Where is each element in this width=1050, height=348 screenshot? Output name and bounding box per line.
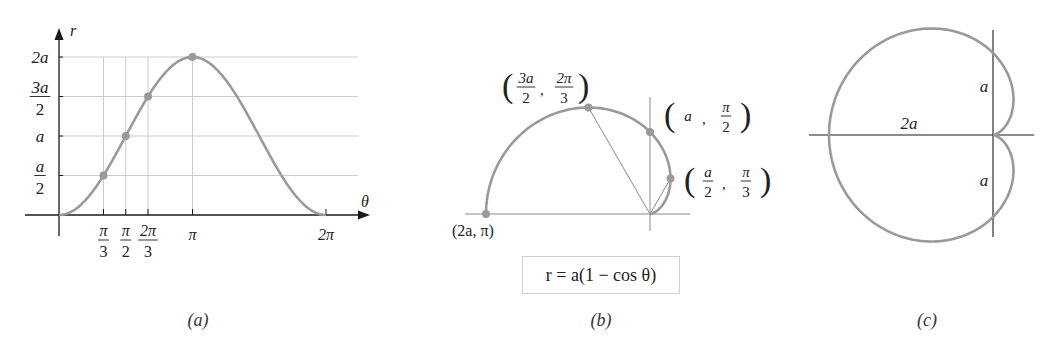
x-tick-label: 2π bbox=[318, 226, 335, 243]
svg-text:2π: 2π bbox=[318, 226, 335, 243]
svg-text:(: ( bbox=[502, 67, 513, 105]
y-tick-label: 3a2 bbox=[30, 78, 51, 119]
point-marker bbox=[667, 174, 675, 182]
theta-value: π3 bbox=[741, 164, 751, 200]
svg-text:2: 2 bbox=[36, 100, 45, 119]
svg-text:2π: 2π bbox=[140, 222, 157, 239]
x-tick-label: π2 bbox=[120, 222, 131, 260]
svg-text:π: π bbox=[122, 222, 131, 239]
svg-text:a: a bbox=[704, 164, 712, 180]
panel-c-cardioid: 2a a a bbox=[809, 29, 1034, 242]
svg-text:π: π bbox=[188, 226, 197, 243]
lower-a-label: a bbox=[980, 171, 989, 190]
width-label: 2a bbox=[901, 114, 918, 133]
svg-text:3: 3 bbox=[100, 243, 108, 260]
svg-text:): ) bbox=[740, 96, 751, 134]
svg-text:3: 3 bbox=[144, 243, 152, 260]
svg-text:π: π bbox=[99, 222, 108, 239]
svg-text:a: a bbox=[36, 157, 45, 176]
point-marker bbox=[189, 53, 197, 61]
svg-text:): ) bbox=[760, 161, 771, 199]
y-tick-label: a2 bbox=[34, 157, 45, 198]
svg-text:2: 2 bbox=[704, 184, 712, 200]
svg-text:2: 2 bbox=[722, 119, 730, 135]
svg-text:π: π bbox=[742, 164, 750, 180]
theta-value: π2 bbox=[721, 99, 731, 135]
svg-text:3: 3 bbox=[742, 184, 750, 200]
svg-text:a: a bbox=[36, 127, 45, 146]
x-tick-label: 2π3 bbox=[138, 222, 158, 260]
upper-a-label: a bbox=[980, 77, 989, 96]
point-marker bbox=[584, 103, 592, 111]
point-marker bbox=[144, 92, 152, 100]
svg-text:2: 2 bbox=[122, 243, 130, 260]
y-tick-label: a bbox=[36, 127, 45, 146]
svg-text:2π: 2π bbox=[556, 70, 572, 86]
svg-text:π: π bbox=[722, 99, 730, 115]
label-2a-pi: (2a, π) bbox=[452, 222, 494, 240]
r-axis-arrow-icon bbox=[55, 28, 64, 40]
r-axis-label: r bbox=[70, 22, 77, 39]
svg-text:3a: 3a bbox=[518, 70, 534, 86]
theta-axis-label: θ bbox=[361, 193, 369, 210]
svg-text:): ) bbox=[578, 67, 589, 105]
caption-a: (a) bbox=[188, 310, 209, 331]
svg-text:a: a bbox=[684, 108, 692, 124]
r-value: a bbox=[684, 108, 692, 124]
label-a2-pi3: (a2,π3) bbox=[684, 161, 771, 200]
point-marker bbox=[646, 128, 654, 136]
marked-points bbox=[482, 103, 675, 218]
svg-text:2: 2 bbox=[522, 90, 530, 106]
radius-rays bbox=[588, 107, 670, 214]
point-marker bbox=[100, 171, 108, 179]
svg-text:,: , bbox=[722, 176, 726, 192]
x-tick-label: π bbox=[188, 226, 197, 243]
svg-text:2a: 2a bbox=[32, 48, 49, 67]
panel-b-polar-half: (2a, π)(3a2,2π3)(a,π2)(a2,π3) bbox=[452, 67, 771, 240]
point-marker bbox=[482, 210, 490, 218]
equation-box: r = a(1 − cos θ) bbox=[522, 256, 680, 294]
svg-text:2: 2 bbox=[36, 179, 45, 198]
r-value: 3a2 bbox=[517, 70, 536, 106]
theta-axis-arrow-icon bbox=[358, 211, 370, 220]
point-marker bbox=[122, 132, 130, 140]
theta-value: 2π3 bbox=[555, 70, 574, 106]
figure-canvas: a2a3a22aπ3π22π3π2π r θ (2a, π)(3a2,2π3)(… bbox=[0, 0, 1050, 348]
svg-text:,: , bbox=[540, 82, 544, 98]
svg-text:,: , bbox=[702, 111, 706, 127]
caption-b: (b) bbox=[591, 310, 612, 331]
polar-half-curve bbox=[486, 108, 671, 215]
svg-text:(: ( bbox=[664, 96, 675, 134]
y-tick-label: 2a bbox=[32, 48, 49, 67]
svg-text:3: 3 bbox=[560, 90, 568, 106]
axis-tick-labels: a2a3a22aπ3π22π3π2π bbox=[30, 48, 335, 260]
grid-lines bbox=[59, 57, 358, 215]
r-value: a2 bbox=[703, 164, 713, 200]
equation-text: r = a(1 − cos θ) bbox=[546, 265, 656, 286]
caption-c: (c) bbox=[917, 310, 937, 331]
label-3a2-2pi3: (3a2,2π3) bbox=[502, 67, 589, 106]
panel-a-graph: a2a3a22aπ3π22π3π2π r θ bbox=[25, 22, 370, 260]
x-tick-label: π3 bbox=[98, 222, 109, 260]
svg-text:(: ( bbox=[684, 161, 695, 199]
svg-text:3a: 3a bbox=[31, 78, 49, 97]
label-a-pi2: (a,π2) bbox=[664, 96, 751, 135]
